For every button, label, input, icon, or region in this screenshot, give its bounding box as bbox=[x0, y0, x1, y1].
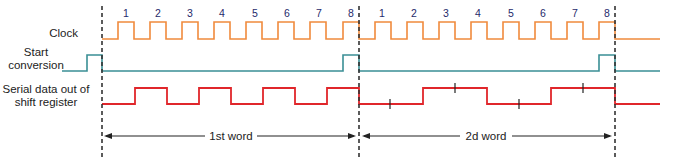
arrow-left-icon bbox=[362, 133, 370, 139]
serial-data-label-line1: Serial data out of bbox=[3, 83, 91, 95]
clock-number: 1 bbox=[123, 7, 129, 19]
clock-number: 2 bbox=[155, 7, 161, 19]
timing-diagram: Clock Start conversion Serial data out o… bbox=[0, 0, 677, 164]
clock-number: 4 bbox=[219, 7, 225, 19]
clock-label: Clock bbox=[49, 27, 78, 39]
serial-data-label-line2: shift register bbox=[15, 96, 78, 108]
clock-number: 6 bbox=[284, 7, 290, 19]
word-boundaries bbox=[102, 6, 615, 160]
clock-waveform bbox=[102, 22, 660, 39]
clock-number: 3 bbox=[187, 7, 193, 19]
clock-number: 3 bbox=[443, 7, 449, 19]
arrow-right-icon bbox=[348, 133, 356, 139]
first-word-label: 1st word bbox=[209, 130, 252, 142]
clock-number: 7 bbox=[572, 7, 578, 19]
clock-number: 2 bbox=[411, 7, 417, 19]
clock-number: 5 bbox=[508, 7, 514, 19]
clock-number: 8 bbox=[348, 7, 354, 19]
serial-data-waveform bbox=[102, 88, 660, 104]
second-word-label: 2d word bbox=[466, 130, 507, 142]
start-conversion-waveform bbox=[62, 55, 660, 71]
clock-number: 7 bbox=[316, 7, 322, 19]
arrow-right-icon bbox=[604, 133, 612, 139]
clock-number: 6 bbox=[540, 7, 546, 19]
start-conversion-label-line1: Start bbox=[24, 46, 49, 58]
arrow-left-icon bbox=[104, 133, 112, 139]
clock-number: 5 bbox=[252, 7, 258, 19]
clock-number: 8 bbox=[604, 7, 610, 19]
start-conversion-label-line2: conversion bbox=[8, 59, 64, 71]
clock-number: 4 bbox=[475, 7, 481, 19]
clock-numbers-word1: 1 2 3 4 5 6 7 8 bbox=[123, 7, 354, 19]
clock-number: 1 bbox=[379, 7, 385, 19]
clock-numbers-word2: 1 2 3 4 5 6 7 8 bbox=[379, 7, 610, 19]
